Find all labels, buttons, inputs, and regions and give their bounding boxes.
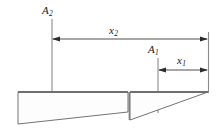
arrowhead-right-icon xyxy=(200,37,208,42)
label-x1-subscript: 1 xyxy=(182,59,186,68)
figure-container: A2 x2 A1 x1 xyxy=(0,0,220,130)
arrowhead-left-icon xyxy=(52,37,60,42)
label-a1-subscript: 1 xyxy=(155,48,159,57)
shape-area-2 xyxy=(18,92,128,124)
label-a2-base: A xyxy=(42,4,49,16)
label-x1: x1 xyxy=(177,55,186,66)
label-x2: x2 xyxy=(109,25,118,36)
shape-area-1 xyxy=(130,92,208,120)
label-a1-base: A xyxy=(148,43,155,55)
diagram-canvas xyxy=(0,0,220,130)
arrowhead-left-icon xyxy=(158,68,166,73)
dimension-x1 xyxy=(158,68,208,73)
label-a2: A2 xyxy=(42,5,52,16)
label-a2-subscript: 2 xyxy=(49,9,53,18)
label-x2-subscript: 2 xyxy=(114,29,118,38)
label-a1: A1 xyxy=(148,44,158,55)
arrowhead-right-icon xyxy=(200,68,208,73)
dimension-x2 xyxy=(52,37,208,42)
